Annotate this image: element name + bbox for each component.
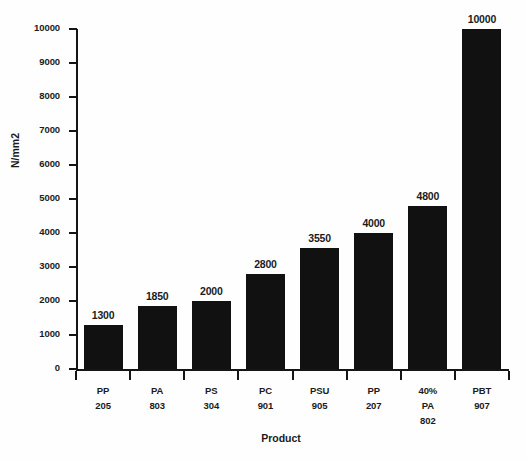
category-label-line: 905 <box>293 398 347 413</box>
x-axis-category-label: 40%PA802 <box>401 383 455 428</box>
x-axis-category-label: PP207 <box>347 383 401 413</box>
x-axis-title: Product <box>0 432 526 444</box>
bar <box>138 306 177 369</box>
x-axis-tick <box>454 371 456 380</box>
y-axis-tick-label: 8000 <box>14 91 60 101</box>
category-label-line: 304 <box>184 398 238 413</box>
bar <box>192 301 231 369</box>
category-label-line: PA <box>401 398 455 413</box>
x-axis-tick <box>346 371 348 380</box>
x-axis-tick <box>292 371 294 380</box>
bar <box>462 29 501 369</box>
bar-value-label: 3550 <box>293 232 347 244</box>
y-axis-tick-label: 5000 <box>14 193 60 203</box>
y-axis-tick-label: 7000 <box>14 125 60 135</box>
x-axis-category-label: PC901 <box>238 383 292 413</box>
y-axis-tick-label: 9000 <box>14 57 60 67</box>
bar-chart-figure: N/mm2 0100020003000400050006000700080009… <box>0 0 526 461</box>
y-axis-tick-label: 2000 <box>14 295 60 305</box>
x-axis-tick <box>129 371 131 380</box>
x-axis-tick <box>183 371 185 380</box>
x-axis-tick <box>75 371 77 380</box>
x-axis-tick <box>237 371 239 380</box>
category-label-line: PC <box>238 383 292 398</box>
x-axis-category-label: PBT907 <box>455 383 509 413</box>
bar <box>300 248 339 369</box>
category-label-line: 901 <box>238 398 292 413</box>
bar-value-label: 4800 <box>401 190 455 202</box>
bar <box>408 206 447 369</box>
y-axis-tick-label: 10000 <box>14 23 60 33</box>
bar-value-label: 10000 <box>455 13 509 25</box>
category-label-line: PP <box>347 383 401 398</box>
x-axis-category-label: PS304 <box>184 383 238 413</box>
x-axis-tick <box>508 371 510 380</box>
category-label-line: PA <box>130 383 184 398</box>
bar-value-label: 2800 <box>238 258 292 270</box>
category-label-line: 907 <box>455 398 509 413</box>
bar <box>84 325 123 369</box>
bar <box>354 233 393 369</box>
bar-value-label: 1300 <box>76 309 130 321</box>
x-axis-tick <box>400 371 402 380</box>
y-axis-tick-label: 3000 <box>14 261 60 271</box>
y-axis-tick-label: 1000 <box>14 329 60 339</box>
category-label-line: PBT <box>455 383 509 398</box>
category-label-line: 803 <box>130 398 184 413</box>
bar-value-label: 1850 <box>130 290 184 302</box>
bar-value-label: 4000 <box>347 217 401 229</box>
y-axis-tick-label: 4000 <box>14 227 60 237</box>
x-axis-category-label: PA803 <box>130 383 184 413</box>
category-label-line: 40% <box>401 383 455 398</box>
bar <box>246 274 285 369</box>
category-label-line: PS <box>184 383 238 398</box>
y-axis-tick-label: 0 <box>14 363 60 373</box>
category-label-line: PSU <box>293 383 347 398</box>
category-label-line: 802 <box>401 413 455 428</box>
x-axis-category-label: PP205 <box>76 383 130 413</box>
category-label-line: PP <box>76 383 130 398</box>
x-axis-category-label: PSU905 <box>293 383 347 413</box>
category-label-line: 207 <box>347 398 401 413</box>
bar-value-label: 2000 <box>184 285 238 297</box>
category-label-line: 205 <box>76 398 130 413</box>
y-axis-tick-label: 6000 <box>14 159 60 169</box>
